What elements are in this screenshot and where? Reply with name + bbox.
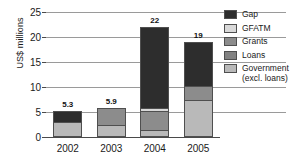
bar-2004 — [140, 27, 169, 137]
legend-label: Government(excl. loans) — [242, 63, 289, 83]
x-tick-label: 2003 — [100, 143, 122, 154]
y-tick-mark — [42, 62, 46, 63]
y-tick-mark — [42, 112, 46, 113]
legend-swatch-icon — [224, 51, 237, 60]
legend-item[interactable]: Government(excl. loans) — [224, 63, 292, 83]
legend-swatch-icon — [224, 24, 237, 33]
legend-label: GFATM — [242, 23, 271, 33]
x-tick-label: 2002 — [57, 143, 79, 154]
bar-value-label: 5.9 — [106, 97, 117, 106]
y-tick-mark — [42, 137, 46, 138]
y-axis-title: US$ millions — [15, 0, 25, 93]
bar-value-label: 22 — [150, 16, 159, 25]
bar-segment — [97, 108, 126, 126]
legend: GapGFATMGrantsLoansGovernment(excl. loan… — [224, 9, 292, 87]
plot-area: 0510152025 5.35.92219 2002200320042005 — [46, 12, 220, 137]
bar-segment — [140, 27, 169, 108]
bar-2002 — [53, 111, 82, 138]
y-tick-label: 25 — [30, 7, 41, 18]
y-tick-mark — [42, 87, 46, 88]
bar-segment — [140, 130, 169, 138]
legend-item[interactable]: Loans — [224, 50, 292, 60]
x-tick-label: 2004 — [144, 143, 166, 154]
legend-item[interactable]: Gap — [224, 9, 292, 19]
legend-label: Grants — [242, 36, 268, 46]
x-tick-label: 2005 — [187, 143, 209, 154]
legend-label-secondary: (excl. loans) — [242, 73, 289, 83]
legend-label: Loans — [242, 50, 265, 60]
bar-segment — [184, 86, 213, 100]
y-tick-label: 5 — [35, 107, 41, 118]
bar-segment — [53, 111, 82, 123]
bar-segment — [53, 122, 82, 137]
bar-segment — [184, 42, 213, 86]
axis-baseline — [46, 137, 220, 138]
bar-segment — [140, 111, 169, 130]
stacked-bar-chart: US$ millions 0510152025 5.35.92219 20022… — [0, 0, 292, 164]
legend-item[interactable]: Grants — [224, 36, 292, 46]
y-tick-label: 15 — [30, 57, 41, 68]
y-tick-label: 0 — [35, 132, 41, 143]
legend-label: Gap — [242, 9, 258, 19]
bar-2003 — [97, 108, 126, 138]
bar-segment — [97, 125, 126, 137]
legend-swatch-icon — [224, 37, 237, 46]
legend-swatch-icon — [224, 64, 237, 73]
y-tick-label: 10 — [30, 82, 41, 93]
y-tick-label: 20 — [30, 32, 41, 43]
bar-value-label: 5.3 — [62, 100, 73, 109]
y-tick-mark — [42, 37, 46, 38]
legend-swatch-icon — [224, 10, 237, 19]
y-tick-mark — [42, 12, 46, 13]
bar-segment — [140, 108, 169, 111]
bar-segment — [184, 100, 213, 137]
legend-item[interactable]: GFATM — [224, 23, 292, 33]
bar-value-label: 19 — [194, 31, 203, 40]
bar-2005 — [184, 42, 213, 137]
